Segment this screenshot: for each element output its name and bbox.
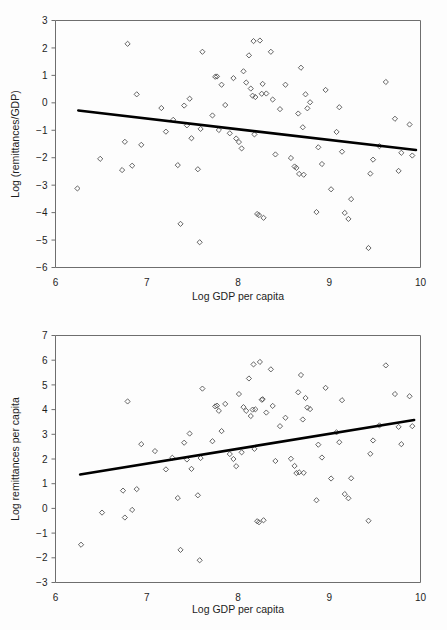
y-axis-title-top: Log (remittances/GDP) [9,90,21,197]
y-tick-label: −3 [36,180,48,191]
data-point-marker [346,496,351,501]
data-point-marker [260,81,265,86]
data-point-marker [197,558,202,563]
data-point-marker [195,167,200,172]
data-point-marker [368,171,373,176]
data-point-marker [399,442,404,447]
data-point-marker [349,197,354,202]
data-point-marker [257,359,262,364]
data-point-marker [334,129,339,134]
data-point-marker [241,69,246,74]
data-point-marker [182,103,187,108]
data-point-marker [410,153,415,158]
data-point-marker [300,125,305,130]
scatter-plot-bottom-svg: 76543210−1−2−3 678910 Log GDP per capita… [0,315,447,630]
data-point-marker [152,448,157,453]
x-axis-ticks-bottom: 678910 [53,592,427,603]
x-tick-label: 7 [144,592,150,603]
data-point-marker [134,92,139,97]
data-point-marker [407,122,412,127]
y-axis-ticks-top: 3210−1−2−3−4−5−6 [36,15,55,273]
data-point-marker [195,493,200,498]
data-point-marker [210,113,215,118]
data-point-marker [175,163,180,168]
data-point-marker [296,390,301,395]
data-point-marker [99,510,104,515]
trend-line-bottom [80,420,414,475]
data-point-marker [337,105,342,110]
data-point-marker [219,428,224,433]
data-point-marker [383,79,388,84]
scatter-plot-top-svg: 3210−1−2−3−4−5−6 678910 Log GDP per capi… [0,0,447,315]
data-point-marker [261,215,266,220]
x-tick-label: 9 [326,592,332,603]
data-point-marker [130,507,135,512]
x-tick-label: 10 [415,592,427,603]
x-tick-label: 7 [144,277,150,288]
data-point-marker [268,49,273,54]
data-point-marker [239,146,244,151]
data-point-marker [227,451,232,456]
x-tick-label: 6 [53,592,59,603]
data-point-marker [349,476,354,481]
data-point-marker [277,107,282,112]
data-point-marker [251,38,256,43]
data-point-marker [346,216,351,221]
y-tick-label: 4 [42,404,48,415]
data-point-marker [314,209,319,214]
data-point-marker [410,424,415,429]
figure-container: 3210−1−2−3−4−5−6 678910 Log GDP per capi… [0,0,447,630]
data-point-marker [227,131,232,136]
data-points-bottom [78,359,414,563]
data-point-marker [98,156,103,161]
data-point-marker [134,487,139,492]
data-point-marker [210,439,215,444]
data-point-marker [178,221,183,226]
data-point-marker [122,139,127,144]
y-tick-label: 7 [42,330,48,341]
data-point-marker [297,470,302,475]
trend-line-top [78,111,416,151]
data-point-marker [301,172,306,177]
data-point-marker [368,451,373,456]
data-point-marker [139,442,144,447]
data-point-marker [175,495,180,500]
data-point-marker [323,385,328,390]
y-tick-label: −3 [36,577,48,588]
data-point-marker [301,470,306,475]
data-point-marker [264,410,269,415]
data-point-marker [139,142,144,147]
data-point-marker [337,440,342,445]
x-tick-label: 9 [326,277,332,288]
data-point-marker [300,417,305,422]
y-axis-title-bottom: Log remittances per capita [9,397,21,521]
data-point-marker [200,49,205,54]
trend-line [78,111,416,151]
data-point-marker [305,106,310,111]
data-point-marker [198,126,203,131]
data-point-marker [288,155,293,160]
data-point-marker [297,171,302,176]
y-tick-label: 0 [42,503,48,514]
data-point-marker [316,145,321,150]
y-tick-label: 5 [42,380,48,391]
y-tick-label: −1 [36,125,48,136]
data-point-marker [244,80,249,85]
data-point-marker [178,547,183,552]
data-point-marker [288,456,293,461]
x-tick-label: 6 [53,277,59,288]
y-tick-label: −6 [36,262,48,273]
data-point-marker [407,394,412,399]
data-point-marker [75,186,80,191]
y-tick-label: 1 [42,478,48,489]
data-point-marker [366,245,371,250]
data-point-marker [219,82,224,87]
y-axis-ticks-bottom: 76543210−1−2−3 [36,330,55,588]
data-point-marker [125,399,130,404]
data-point-marker [231,456,236,461]
data-point-marker [396,424,401,429]
data-point-marker [298,65,303,70]
x-axis-ticks-top: 678910 [53,277,427,288]
data-point-marker [200,386,205,391]
data-point-marker [78,542,83,547]
